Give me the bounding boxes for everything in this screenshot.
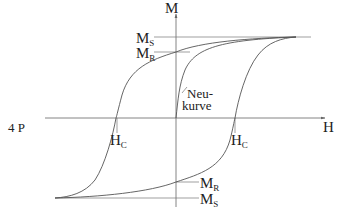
ms-bottom-label: MS	[200, 191, 218, 209]
descending-branch	[55, 37, 296, 198]
hc-right-label: HC	[231, 132, 248, 150]
ascending-branch	[55, 37, 296, 198]
virgin-curve-label-line2: kurve	[182, 98, 212, 113]
hysteresis-diagram: M H MS MR MR MS HC HC Neu- kurve 4 P	[0, 0, 351, 217]
hc-left-label: HC	[110, 132, 127, 150]
m-axis-label: M	[165, 0, 178, 16]
side-label: 4 P	[8, 120, 25, 135]
h-axis-label: H	[323, 119, 334, 135]
